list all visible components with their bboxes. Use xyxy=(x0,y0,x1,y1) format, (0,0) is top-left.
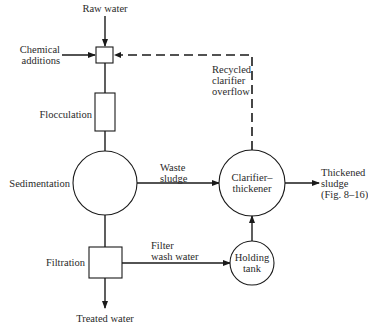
clarifier-line-2: thickener xyxy=(222,183,282,194)
filter-line-1: Filter xyxy=(151,240,199,251)
holding-line-1: Holding xyxy=(226,252,278,263)
filtration-label: Filtration xyxy=(0,257,85,268)
thickened-line-3: (Fig. 8–16) xyxy=(321,189,368,200)
treated-water-label: Treated water xyxy=(62,313,148,324)
thickened-line-2: sludge xyxy=(321,178,368,189)
flocculation-box xyxy=(95,93,115,131)
flocculation-label: Flocculation xyxy=(0,109,92,120)
holding-line-2: tank xyxy=(226,263,278,274)
waste-sludge-label: Waste sludge xyxy=(160,162,187,184)
sedimentation-label: Sedimentation xyxy=(0,178,70,189)
recycled-overflow-label: Recycled clarifier overflow xyxy=(212,64,251,97)
filter-line-2: wash water xyxy=(151,251,199,262)
filter-wash-label: Filter wash water xyxy=(151,240,199,262)
waste-line-1: Waste xyxy=(160,162,187,173)
sedimentation-circle xyxy=(73,151,137,215)
waste-line-2: sludge xyxy=(160,173,187,184)
clarifier-line-1: Clarifier– xyxy=(222,172,282,183)
raw-water-label: Raw water xyxy=(72,3,138,14)
chemical-additions-label: Chemical additions xyxy=(0,44,60,66)
recycled-line-1: Recycled xyxy=(212,64,251,75)
chemical-line-1: Chemical xyxy=(0,44,60,55)
mixer-box xyxy=(96,47,113,63)
recycled-arrowhead xyxy=(114,52,121,58)
thickened-line-1: Thickened xyxy=(321,167,368,178)
filtration-box xyxy=(89,247,122,278)
chemical-line-2: additions xyxy=(0,55,60,66)
clarifier-thickener-label: Clarifier– thickener xyxy=(222,172,282,194)
holding-tank-label: Holding tank xyxy=(226,252,278,274)
recycled-line-3: overflow xyxy=(212,86,251,97)
thickened-sludge-label: Thickened sludge (Fig. 8–16) xyxy=(321,167,368,200)
recycled-line-2: clarifier xyxy=(212,75,251,86)
